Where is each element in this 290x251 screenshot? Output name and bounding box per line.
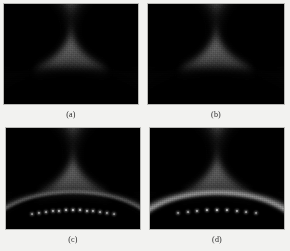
- panel-b: [148, 4, 284, 104]
- panel-a-caption: (a): [4, 110, 138, 119]
- noise-grain-overlay-secondary: [150, 128, 284, 229]
- panel-a: [4, 4, 138, 104]
- panel-c-caption: (c): [6, 235, 140, 244]
- panel-b-image: [148, 4, 284, 104]
- panel-d-image: [150, 128, 284, 229]
- panel-b-caption: (b): [148, 110, 284, 119]
- noise-grain-overlay-secondary: [4, 4, 138, 104]
- panel-c-image: [6, 128, 140, 229]
- noise-grain-overlay-secondary: [6, 128, 140, 229]
- noise-grain-overlay-secondary: [148, 4, 284, 104]
- panel-a-image: [4, 4, 138, 104]
- panel-c: [6, 128, 140, 229]
- figure-panel-grid: (a) (b): [0, 0, 290, 251]
- panel-d-caption: (d): [150, 235, 284, 244]
- panel-d: [150, 128, 284, 229]
